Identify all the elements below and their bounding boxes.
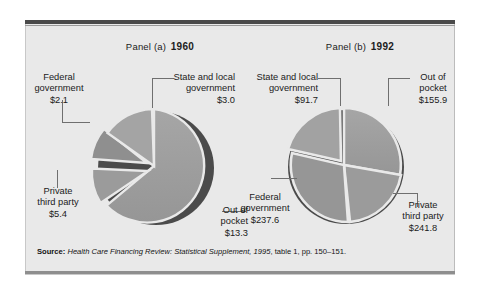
label-state-local-government-b: State and local government $91.7 bbox=[240, 72, 318, 106]
panel-a-name: Panel (a) bbox=[126, 41, 166, 52]
leader-oop-b-v bbox=[388, 78, 389, 106]
pie-b-slice-out-of-pocket bbox=[344, 108, 401, 175]
label-private-third-party-a: Private third party $5.4 bbox=[26, 186, 90, 220]
panel-a-year: 1960 bbox=[171, 41, 194, 52]
leader-oop-b-h bbox=[388, 78, 410, 79]
label-state-local-government-a: State and local government $3.0 bbox=[152, 72, 235, 106]
label-federal-government-b: Federal government $237.6 bbox=[232, 192, 298, 226]
source-note: Source: Health Care Financing Review: St… bbox=[37, 247, 346, 256]
leader-federal-a-h bbox=[62, 122, 90, 123]
leader-private-b-h bbox=[393, 193, 417, 194]
label-out-of-pocket-b: Out of pocket $155.9 bbox=[410, 72, 456, 106]
pie-b-slice-federal-government bbox=[291, 153, 348, 222]
source-citation: Health Care Financing Review: Statistica… bbox=[67, 247, 270, 256]
source-tail: , table 1, pp. 150–151. bbox=[270, 247, 346, 256]
leader-state-b-v bbox=[340, 78, 341, 106]
bottom-rule-hairline bbox=[25, 274, 455, 275]
top-rule bbox=[25, 20, 455, 24]
label-private-third-party-b: Private third party $241.8 bbox=[392, 200, 454, 234]
panel-b-heading: Panel (b) 1992 bbox=[280, 36, 440, 54]
source-prefix: Source: bbox=[37, 247, 65, 256]
top-rule-hairline bbox=[25, 25, 455, 26]
leader-federal-b bbox=[271, 178, 297, 179]
panel-b-year: 1992 bbox=[371, 41, 394, 52]
panel-a-heading: Panel (a) 1960 bbox=[80, 36, 240, 54]
leader-state-b-h bbox=[318, 78, 340, 79]
panel-b-name: Panel (b) bbox=[326, 41, 366, 52]
label-federal-government-a: Federal government $2.1 bbox=[24, 72, 94, 106]
